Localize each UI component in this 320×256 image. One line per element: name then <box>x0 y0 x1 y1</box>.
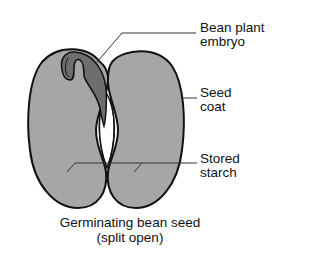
caption-line1: Germinating bean seed <box>40 215 220 230</box>
right-cotyledon <box>108 51 184 208</box>
diagram-caption: Germinating bean seed (split open) <box>40 215 220 245</box>
caption-line2: (split open) <box>40 230 220 245</box>
label-embryo: Bean plant embryo <box>200 21 265 49</box>
label-stored-starch: Stored starch <box>200 152 240 180</box>
label-starch-line2: starch <box>200 166 240 180</box>
label-embryo-line1: Bean plant <box>200 21 265 35</box>
label-embryo-line2: embryo <box>200 35 265 49</box>
label-seed-coat: Seed coat <box>200 86 232 114</box>
label-starch-line1: Stored <box>200 152 240 166</box>
label-seed-coat-line1: Seed <box>200 86 232 100</box>
label-seed-coat-line2: coat <box>200 100 232 114</box>
